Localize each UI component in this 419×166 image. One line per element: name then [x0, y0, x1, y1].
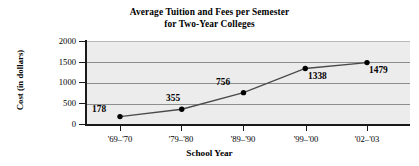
chart-figure: Average Tuition and Fees per Semester fo…: [0, 0, 419, 166]
value-label-1479: 1479: [369, 66, 388, 75]
data-point-355: [179, 107, 184, 112]
value-label-355: 355: [166, 94, 180, 103]
series-polyline: [120, 63, 367, 117]
value-label-178: 178: [92, 105, 106, 114]
data-point-178: [117, 114, 122, 119]
value-label-756: 756: [216, 78, 230, 87]
series-line-chart: [0, 0, 419, 166]
series-markers: [117, 60, 369, 119]
data-point-756: [241, 90, 246, 95]
value-label-1338: 1338: [308, 72, 327, 81]
